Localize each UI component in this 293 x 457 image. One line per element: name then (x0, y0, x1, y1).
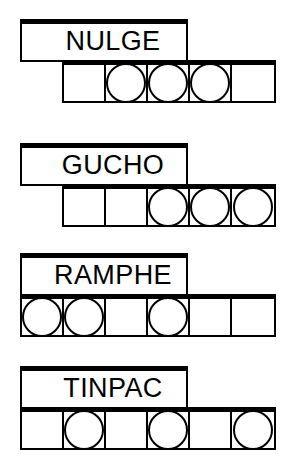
puzzle-sheet: NULGEGUCHORAMPHETINPAC (0, 0, 293, 457)
word-label-box: NULGE (20, 19, 188, 62)
answer-cell-circled[interactable] (64, 412, 106, 448)
circle-marker-icon (106, 63, 146, 103)
word-label-text: GUCHO (22, 148, 186, 184)
answer-cell-circled[interactable] (148, 412, 190, 448)
answer-cell-circled[interactable] (148, 65, 190, 101)
circle-marker-icon (148, 297, 188, 337)
circle-marker-icon (148, 63, 188, 103)
circle-marker-icon (148, 410, 188, 450)
circle-marker-icon (148, 187, 188, 227)
answer-cell[interactable] (106, 412, 148, 448)
answer-cells-row (20, 407, 276, 450)
circle-marker-icon (64, 297, 104, 337)
word-label-box: RAMPHE (20, 253, 188, 296)
answer-cell[interactable] (232, 65, 274, 101)
circle-marker-icon (64, 410, 104, 450)
circle-marker-icon (233, 410, 273, 450)
answer-cell-circled[interactable] (148, 299, 190, 335)
answer-cell[interactable] (232, 299, 274, 335)
answer-cell-circled[interactable] (106, 65, 148, 101)
answer-cells-row (62, 60, 276, 103)
answer-cell[interactable] (190, 299, 232, 335)
answer-cell-circled[interactable] (148, 189, 190, 225)
answer-cell[interactable] (64, 65, 106, 101)
circle-marker-icon (190, 187, 230, 227)
circle-marker-icon (233, 187, 273, 227)
answer-cell-circled[interactable] (232, 189, 274, 225)
answer-cell[interactable] (106, 189, 148, 225)
word-label-box: TINPAC (20, 366, 188, 409)
word-label-box: GUCHO (20, 143, 188, 186)
answer-cell[interactable] (64, 189, 106, 225)
word-label-text: TINPAC (22, 371, 186, 407)
answer-cell[interactable] (22, 412, 64, 448)
word-label-text: NULGE (22, 24, 186, 60)
answer-cell-circled[interactable] (190, 65, 232, 101)
answer-cell-circled[interactable] (22, 299, 64, 335)
answer-cells-row (20, 294, 276, 337)
answer-cell-circled[interactable] (190, 189, 232, 225)
answer-cell[interactable] (190, 412, 232, 448)
word-label-text: RAMPHE (22, 258, 186, 294)
answer-cell[interactable] (106, 299, 148, 335)
circle-marker-icon (190, 63, 230, 103)
answer-cell-circled[interactable] (232, 412, 274, 448)
circle-marker-icon (22, 297, 62, 337)
answer-cells-row (62, 184, 276, 227)
answer-cell-circled[interactable] (64, 299, 106, 335)
